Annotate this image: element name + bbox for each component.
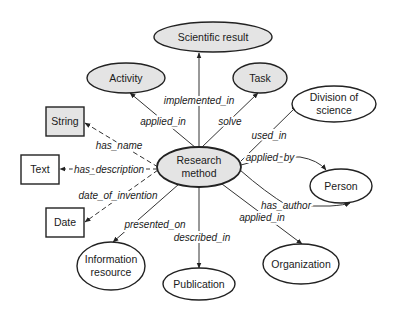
node-task[interactable]: Task — [233, 63, 287, 93]
node-label-information-resource-line2: resource — [91, 266, 132, 278]
edge-label-applied-in-organization: applied_in — [239, 212, 285, 223]
edge-label-has-author: has_author — [261, 200, 312, 211]
edge-label-date-of-invention: date_of_invention — [79, 190, 158, 201]
node-string[interactable]: String — [46, 107, 84, 136]
node-label-publication: Publication — [173, 278, 225, 290]
node-publication[interactable]: Publication — [163, 268, 235, 300]
diagram-svg: implemented_in applied_in solve used_in … — [0, 0, 410, 311]
node-label-person: Person — [324, 180, 357, 192]
node-label-research-method-line2: method — [181, 167, 216, 179]
node-label-research-method-line1: Research — [177, 154, 222, 166]
edge-label-implemented-in: implemented_in — [164, 95, 235, 106]
node-date[interactable]: Date — [46, 208, 84, 237]
node-information-resource[interactable]: Information resource — [77, 242, 145, 290]
edge-label-has-name: has_name — [96, 140, 143, 151]
node-organization[interactable]: Organization — [263, 244, 339, 284]
node-label-division-of-science-line1: Division of — [310, 91, 359, 103]
edge-label-solve: solve — [218, 116, 242, 127]
edge-label-has-description: has_description — [74, 164, 144, 175]
node-label-scientific-result: Scientific result — [178, 31, 249, 43]
node-label-date: Date — [54, 216, 76, 228]
node-label-task: Task — [249, 72, 271, 84]
node-scientific-result[interactable]: Scientific result — [154, 22, 272, 52]
node-activity[interactable]: Activity — [87, 63, 165, 93]
node-label-division-of-science-line2: science — [316, 104, 352, 116]
edge-label-applied-by: applied_by — [246, 152, 295, 163]
node-label-organization: Organization — [271, 258, 331, 270]
node-text[interactable]: Text — [21, 155, 59, 184]
node-label-activity: Activity — [109, 72, 143, 84]
node-division-of-science[interactable]: Division of science — [292, 86, 376, 122]
node-person[interactable]: Person — [310, 169, 372, 203]
edge-label-used-in: used_in — [251, 130, 286, 141]
edge-label-presented-on: presented_on — [123, 219, 186, 230]
node-label-information-resource-line1: Information — [85, 253, 138, 265]
edge-label-applied-in-activity: applied_in — [140, 116, 186, 127]
node-research-method[interactable]: Research method — [157, 147, 241, 187]
node-label-string: String — [51, 115, 79, 127]
ontology-diagram: implemented_in applied_in solve used_in … — [0, 0, 410, 311]
node-label-text: Text — [30, 163, 49, 175]
edge-label-described-in: described_in — [174, 232, 231, 243]
